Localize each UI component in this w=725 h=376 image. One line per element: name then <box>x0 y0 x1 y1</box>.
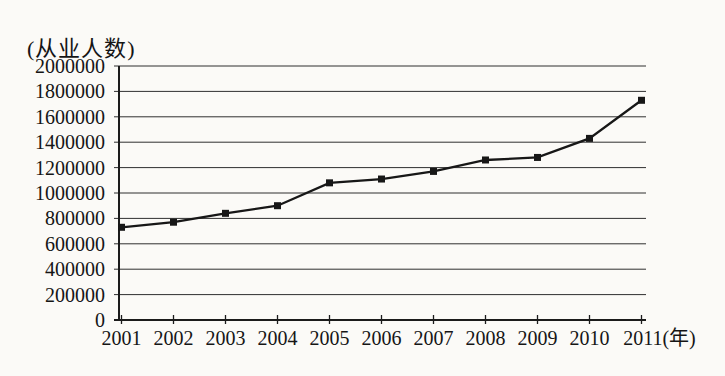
y-axis-tick-label: 800000 <box>0 207 112 229</box>
data-point-marker <box>430 168 437 175</box>
data-line <box>122 100 642 227</box>
y-axis-tick-label: 1200000 <box>0 157 112 179</box>
y-axis-tick-label: 1400000 <box>0 131 112 153</box>
x-axis-tick-label: 2003 <box>196 326 256 350</box>
chart-canvas <box>119 66 646 320</box>
data-point-marker <box>378 176 385 183</box>
data-point-marker <box>170 219 177 226</box>
data-point-marker <box>274 202 281 209</box>
y-axis-tick-label: 1600000 <box>0 106 112 128</box>
line-chart-figure: (从业人数) 200000018000001600000140000012000… <box>0 0 725 376</box>
x-axis-tick-label: 2009 <box>508 326 568 350</box>
data-point-marker <box>482 156 489 163</box>
x-axis-tick-label: 2010 <box>560 326 620 350</box>
y-axis-tick-label: 2000000 <box>0 55 112 77</box>
x-axis-tick-label: 2002 <box>144 326 204 350</box>
x-axis-tick-label: 2005 <box>300 326 360 350</box>
data-point-marker <box>586 135 593 142</box>
x-axis-tick-label: 2001 <box>92 326 152 350</box>
x-axis-tick-label: 2008 <box>456 326 516 350</box>
y-axis-tick-label: 200000 <box>0 284 112 306</box>
y-axis-tick-label: 400000 <box>0 258 112 280</box>
y-axis-tick-label: 1800000 <box>0 80 112 102</box>
x-axis-tick-label: 2006 <box>352 326 412 350</box>
x-axis-tick-label: 2004 <box>248 326 308 350</box>
plot-area <box>119 66 646 320</box>
x-axis-tick-label: 2011(年) <box>612 326 708 350</box>
data-point-marker <box>638 97 645 104</box>
y-axis-tick-label: 600000 <box>0 233 112 255</box>
data-point-marker <box>534 154 541 161</box>
data-point-marker <box>118 224 125 231</box>
y-axis-tick-label: 1000000 <box>0 182 112 204</box>
data-point-marker <box>222 210 229 217</box>
x-axis-tick-label: 2007 <box>404 326 464 350</box>
data-point-marker <box>326 179 333 186</box>
